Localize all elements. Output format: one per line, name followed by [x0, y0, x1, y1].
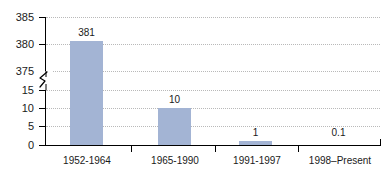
- y-axis-label-375: 375: [0, 66, 34, 77]
- bar-1952-1964[interactable]: [70, 41, 103, 145]
- y-axis-label-0: 0: [0, 140, 34, 151]
- y-axis-label-385: 385: [0, 12, 34, 23]
- bar-value-1952-1964: 381: [64, 28, 109, 38]
- y-axis-tick-385: [39, 17, 45, 18]
- gridline-385: [46, 17, 380, 18]
- bar-value-1991-1997: 1: [233, 128, 278, 138]
- y-axis-tick-10: [39, 108, 45, 109]
- y-axis-tick-15: [39, 90, 45, 91]
- axis-break-icon: [38, 71, 53, 90]
- y-axis-label-10: 10: [0, 103, 34, 114]
- x-axis-label-1991-1997: 1991-1997: [212, 156, 302, 166]
- y-axis-label-5: 5: [0, 121, 34, 132]
- bar-value-1965-1990: 10: [152, 95, 197, 105]
- y-axis-tick-380: [39, 44, 45, 45]
- x-axis-label-1998-present: 1998–Present: [292, 156, 388, 166]
- x-axis-tick-1: [131, 145, 132, 152]
- bar-value-1998-present: 0.1: [316, 128, 361, 138]
- x-axis-label-1965-1990: 1965-1990: [130, 156, 220, 166]
- y-axis-label-15: 15: [0, 85, 34, 96]
- x-axis-line: [45, 145, 381, 146]
- x-axis-label-1952-1964: 1952-1964: [42, 156, 132, 166]
- bar-chart-figure: 385 380 375 15 10 5 0 381 10 1 0.1 1952-…: [0, 0, 391, 180]
- x-axis-endcap: [380, 139, 381, 146]
- y-axis-tick-5: [39, 126, 45, 127]
- y-axis-label-380: 380: [0, 39, 34, 50]
- x-axis-tick-3: [298, 145, 299, 152]
- x-axis-tick-2: [215, 145, 216, 152]
- bar-1965-1990[interactable]: [158, 108, 191, 145]
